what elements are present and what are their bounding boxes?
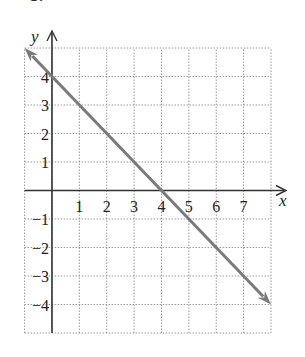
x-tick-label: 2 [103, 198, 111, 215]
x-tick-label: 4 [157, 198, 165, 215]
x-axis-label: x [278, 191, 287, 210]
line-y-equals-neg-x-plus-4 [32, 56, 263, 296]
x-tick-label: 6 [212, 198, 220, 215]
x-tick-label: 1 [75, 198, 83, 215]
y-tick-label: −2 [32, 240, 49, 257]
y-tick-label: −3 [32, 268, 49, 285]
y-tick-label: 3 [41, 97, 49, 114]
x-tick-label: 3 [130, 198, 138, 215]
y-tick-label: 2 [41, 126, 49, 143]
x-tick-label: 7 [240, 198, 248, 215]
plotted-line [25, 48, 271, 305]
x-tick-label: 5 [185, 198, 193, 215]
y-axis-label: y [29, 27, 39, 46]
y-tick-label: −4 [32, 297, 49, 314]
coordinate-plane: xy 1234567−4−3−2−11234 [0, 0, 305, 357]
axes: xy [25, 27, 287, 333]
y-tick-label: 1 [41, 154, 49, 171]
y-tick-label: −1 [32, 211, 49, 228]
